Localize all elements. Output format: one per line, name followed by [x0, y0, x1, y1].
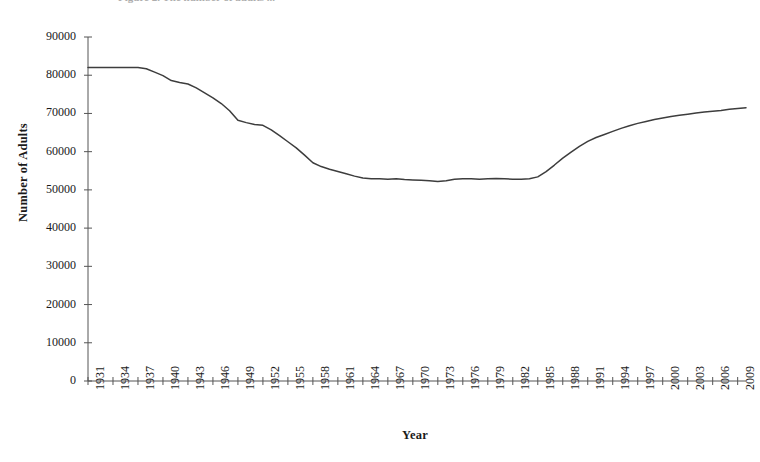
x-axis-tick-label: 1964: [368, 366, 383, 390]
x-axis-tick-label: 1931: [93, 366, 108, 390]
x-axis-tick-label: 2009: [743, 366, 758, 390]
x-axis-tick-label: 1988: [568, 366, 583, 390]
x-axis-tick-label: 2006: [718, 366, 733, 390]
y-axis-tick-label: 10000: [12, 335, 76, 350]
x-axis-tick-label: 1940: [168, 366, 183, 390]
x-axis-tick-label: 1946: [218, 366, 233, 390]
y-axis-tick-label: 40000: [12, 220, 76, 235]
x-axis-tick-label: 1991: [593, 366, 608, 390]
x-axis-tick-label: 1934: [118, 366, 133, 390]
x-axis-tick-label: 1979: [493, 366, 508, 390]
y-axis-tick-label: 20000: [12, 297, 76, 312]
x-axis-tick-label: 1985: [543, 366, 558, 390]
x-axis-tick-label: 1955: [293, 366, 308, 390]
x-axis-tick-label: 1976: [468, 366, 483, 390]
x-axis-tick-label: 1994: [618, 366, 633, 390]
x-axis-tick-label: 1961: [343, 366, 358, 390]
x-axis-tick-label: 1952: [268, 366, 283, 390]
chart-plot-area: [0, 0, 760, 462]
x-axis-tick-label: 1973: [443, 366, 458, 390]
y-axis-tick-label: 50000: [12, 182, 76, 197]
x-axis-tick-label: 1949: [243, 366, 258, 390]
x-axis-tick-label: 1937: [143, 366, 158, 390]
y-axis-tick-label: 70000: [12, 105, 76, 120]
x-axis-title: Year: [0, 428, 760, 443]
chart-axes: [88, 37, 746, 381]
x-axis-tick-label: 2003: [693, 366, 708, 390]
y-axis-tick-label: 0: [12, 373, 76, 388]
x-axis-tick-label: 1943: [193, 366, 208, 390]
y-axis-tick-label: 80000: [12, 67, 76, 82]
x-axis-tick-label: 1997: [643, 366, 658, 390]
x-axis-tick-label: 1967: [393, 366, 408, 390]
x-axis-tick-label: 1982: [518, 366, 533, 390]
x-axis-tick-label: 1970: [418, 366, 433, 390]
x-axis-tick-label: 1958: [318, 366, 333, 390]
y-axis-tick-label: 30000: [12, 258, 76, 273]
y-axis-tick-label: 60000: [12, 144, 76, 159]
x-axis-tick-label: 2000: [668, 366, 683, 390]
y-axis-tick-label: 90000: [12, 29, 76, 44]
data-series-line: [88, 68, 746, 182]
line-chart-figure: Number of Adults Year 010000200003000040…: [0, 0, 760, 462]
